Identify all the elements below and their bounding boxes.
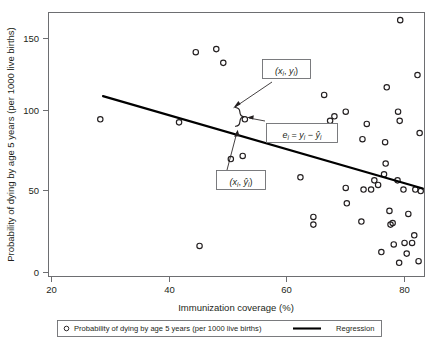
chart-canvas: 0 50 100 150 20 40 60 80 Immunization co… (0, 0, 438, 343)
y-axis-title: Probability of dying by age 5 years (per… (5, 27, 16, 261)
y-tick-label-100: 100 (23, 105, 39, 116)
x-axis-ticks (52, 277, 405, 283)
y-tick-label-50: 50 (28, 185, 39, 196)
scatter-chart-figure: 0 50 100 150 20 40 60 80 Immunization co… (0, 0, 438, 343)
residual-label-text: ei = yi − ŷi (283, 130, 322, 141)
y-tick-label-150: 150 (23, 33, 39, 44)
x-tick-label-20: 20 (46, 284, 57, 295)
observed-point-label-text: (xi, yi) (275, 66, 298, 77)
plot-frame (49, 13, 425, 277)
fitted-point-label-text: (xi, ŷi) (230, 177, 253, 188)
x-axis-title: Immunization coverage (%) (178, 302, 294, 313)
legend-scatter-label: Probability of dying by age 5 years (per… (74, 324, 262, 333)
y-axis-tick-labels: 0 50 100 150 (23, 33, 39, 278)
x-tick-label-80: 80 (399, 284, 410, 295)
x-tick-label-40: 40 (164, 284, 175, 295)
x-axis-tick-labels: 20 40 60 80 (46, 284, 410, 295)
x-tick-label-60: 60 (281, 284, 292, 295)
y-axis-ticks (43, 39, 49, 273)
y-tick-label-0: 0 (34, 267, 39, 278)
legend-line-label: Regression (336, 324, 374, 333)
chart-legend: Probability of dying by age 5 years (per… (58, 321, 382, 337)
